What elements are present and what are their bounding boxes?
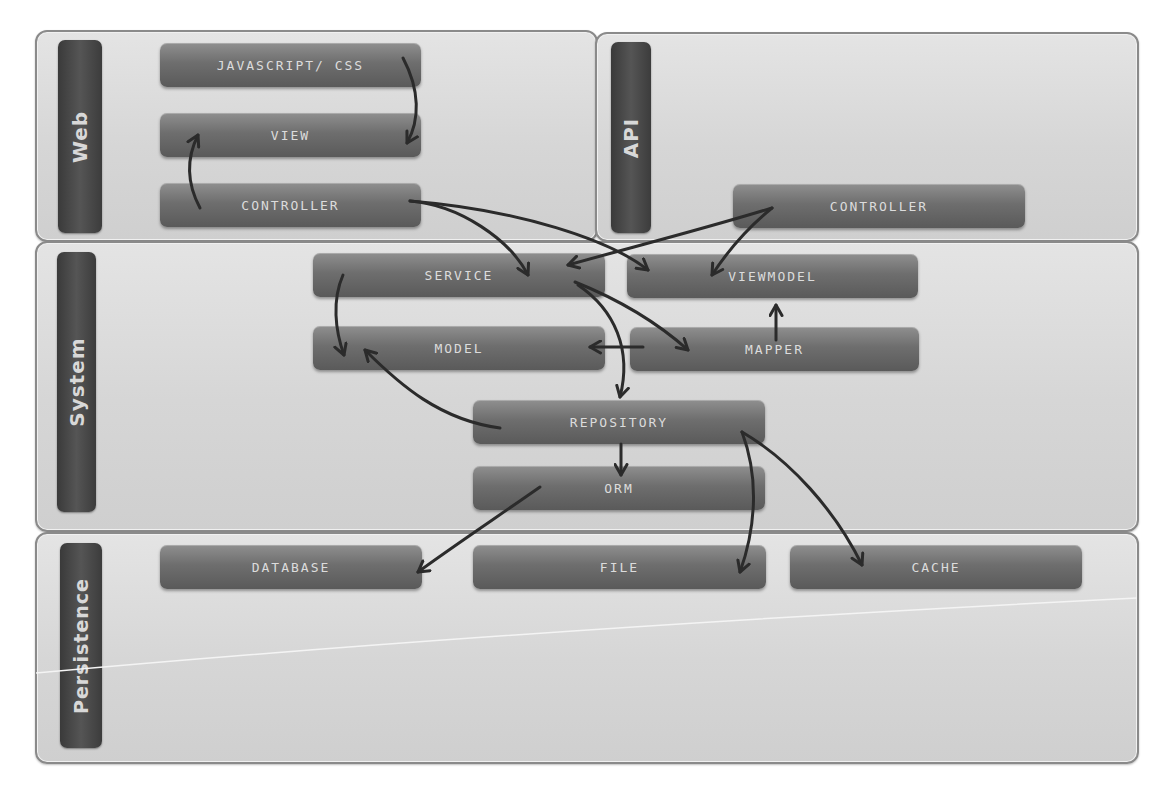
node-label: VIEW [271,128,310,143]
node-repository[interactable]: REPOSITORY [473,400,765,444]
system-layer-title: System [65,337,89,426]
persistence-layer-title: Persistence [70,578,92,714]
node-javascript-css[interactable]: JAVASCRIPT/ CSS [160,43,421,87]
node-api-controller[interactable]: CONTROLLER [733,184,1025,228]
node-label: REPOSITORY [570,415,668,430]
node-file[interactable]: FILE [473,545,766,589]
node-label: MAPPER [745,342,804,357]
node-label: MODEL [434,341,483,356]
node-model[interactable]: MODEL [313,326,605,370]
node-database[interactable]: DATABASE [160,545,422,589]
node-label: JAVASCRIPT/ CSS [217,58,364,73]
api-layer-title: API [619,117,643,158]
node-label: VIEWMODEL [728,269,816,284]
node-label: ORM [604,481,633,496]
node-label: SERVICE [425,268,494,283]
node-mapper[interactable]: MAPPER [630,327,919,371]
node-viewmodel[interactable]: VIEWMODEL [627,254,918,298]
node-web-controller[interactable]: CONTROLLER [160,183,421,227]
system-layer-label: System [57,252,96,512]
node-label: DATABASE [252,560,331,575]
web-layer-label: Web [58,40,102,233]
node-service[interactable]: SERVICE [313,253,605,297]
web-layer-title: Web [68,110,92,162]
node-label: CACHE [911,560,960,575]
node-label: CONTROLLER [830,199,928,214]
node-view[interactable]: VIEW [160,113,421,157]
node-label: FILE [600,560,639,575]
node-orm[interactable]: ORM [473,466,765,510]
node-cache[interactable]: CACHE [790,545,1082,589]
api-layer-label: API [611,42,651,233]
persistence-layer-label: Persistence [60,543,102,748]
node-label: CONTROLLER [241,198,339,213]
